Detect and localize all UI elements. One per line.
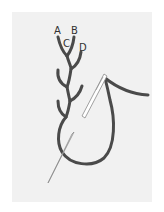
- stitch-left-2: [58, 70, 67, 87]
- stitch-left-3: [58, 101, 66, 117]
- thread: [58, 37, 148, 164]
- needle-upper: [82, 74, 107, 118]
- stitch-diagram: [0, 0, 164, 212]
- label-b: B: [71, 26, 78, 36]
- label-c: C: [63, 39, 70, 49]
- stem-1: [67, 56, 71, 68]
- stem-4: [66, 101, 70, 117]
- needle-lower: [48, 132, 74, 183]
- stem-2: [67, 69, 71, 87]
- stitch-d: [71, 52, 81, 69]
- label-d: D: [79, 43, 87, 53]
- label-a: A: [54, 26, 61, 36]
- stem-3: [67, 87, 70, 101]
- thread-tail: [105, 78, 148, 95]
- stitch-right-2: [70, 86, 82, 101]
